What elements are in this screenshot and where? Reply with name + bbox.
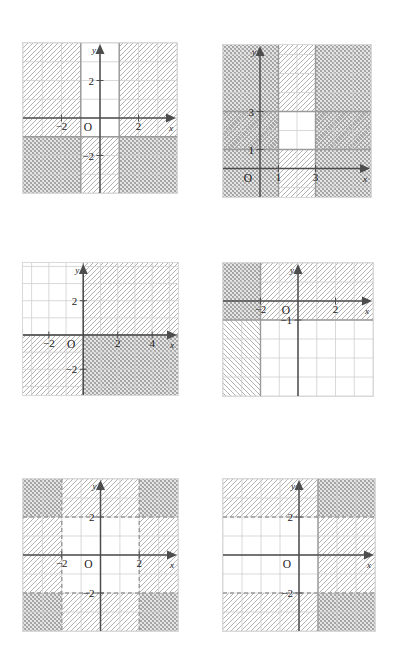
shaded-region: [83, 335, 178, 395]
shaded-region: [83, 263, 178, 335]
origin-label: O: [84, 558, 92, 570]
coordinate-plane-16: −22−1Oxy: [222, 262, 374, 397]
worksheet-page: −222−2Oxy1313Oxy−2242−2Oxy−22−1Oxy−222−2…: [0, 0, 394, 646]
shaded-region: [23, 43, 81, 137]
coordinate-plane-13: −2242−2Oxy: [22, 262, 179, 396]
axis-tick-label: 2: [115, 337, 121, 349]
origin-label: O: [244, 172, 252, 184]
axis-tick-label: 1: [276, 171, 282, 183]
axis-tick-label: −2: [82, 150, 94, 162]
coordinate-plane-12: −222−2Oxy: [22, 42, 178, 194]
x-axis-label: x: [364, 306, 369, 316]
y-axis-label: y: [289, 265, 294, 275]
axis-tick-label: −2: [281, 587, 293, 599]
origin-label: O: [283, 558, 291, 570]
axis-tick-label: −2: [43, 337, 55, 349]
x-axis-label: x: [362, 174, 367, 184]
x-axis-label: x: [169, 560, 174, 570]
axis-tick-label: −2: [66, 363, 78, 375]
coordinate-plane-17: 2−2Oxy: [222, 478, 376, 632]
axis-tick-label: 4: [149, 337, 155, 349]
axis-tick-label: 2: [89, 511, 95, 523]
y-axis-label: y: [290, 481, 295, 491]
axis-tick-label: 3: [313, 171, 319, 183]
origin-label: O: [84, 121, 92, 133]
axis-tick-label: 2: [137, 557, 143, 569]
axis-tick-label: 2: [333, 303, 339, 315]
shaded-region: [119, 137, 177, 193]
shaded-region: [23, 137, 81, 193]
axis-tick-label: 2: [72, 295, 78, 307]
y-axis-label: y: [91, 45, 96, 55]
axis-tick-label: −2: [56, 557, 68, 569]
x-axis-label: x: [366, 560, 371, 570]
axis-tick-label: −2: [83, 587, 95, 599]
origin-label: O: [67, 338, 75, 350]
y-axis-label: y: [92, 481, 97, 491]
coordinate-plane-14: −222−2Oxy: [22, 478, 179, 632]
y-axis-label: y: [74, 265, 79, 275]
axis-tick-label: 2: [288, 511, 294, 523]
origin-label: O: [282, 304, 290, 316]
axis-tick-label: −2: [56, 120, 68, 132]
y-axis-label: y: [251, 47, 256, 57]
axis-tick-label: 2: [89, 75, 95, 87]
axis-tick-label: −2: [255, 303, 267, 315]
axis-tick-label: 3: [249, 106, 255, 118]
x-axis-label: x: [169, 340, 174, 350]
coordinate-plane-15: 1313Oxy: [222, 44, 372, 198]
axis-tick-label: 1: [249, 144, 255, 156]
x-axis-label: x: [168, 123, 173, 133]
axis-tick-label: 2: [136, 120, 142, 132]
